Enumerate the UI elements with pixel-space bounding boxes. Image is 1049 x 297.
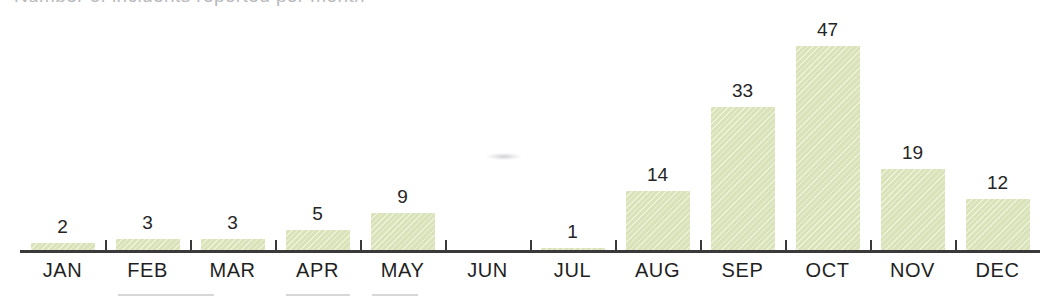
x-axis-label-apr: APR (275, 257, 360, 283)
bar[interactable] (286, 230, 350, 252)
x-axis-label-oct: OCT (785, 257, 870, 283)
bar-column[interactable]: 47 (785, 0, 870, 252)
bar-value-label: 3 (227, 213, 238, 232)
bar-value-label: 33 (732, 81, 753, 100)
bar-value-label: 19 (902, 143, 923, 162)
bar[interactable] (881, 169, 945, 252)
bar[interactable] (796, 46, 860, 252)
x-axis-tick (615, 240, 617, 251)
bar[interactable] (626, 191, 690, 252)
bar-column[interactable]: 14 (615, 0, 700, 252)
bar-column[interactable]: 9 (360, 0, 445, 252)
x-axis-label-jan: JAN (20, 257, 105, 283)
bar[interactable] (711, 107, 775, 252)
x-axis-tick (870, 240, 872, 251)
bar-column[interactable]: 3 (105, 0, 190, 252)
bar-column[interactable]: 19 (870, 0, 955, 252)
x-axis-tick (955, 240, 957, 251)
bar-value-label: 12 (987, 173, 1008, 192)
x-axis-label-may: MAY (360, 257, 445, 283)
bar-column[interactable]: 2 (20, 0, 105, 252)
x-axis-tick (190, 240, 192, 251)
x-axis-tick (360, 240, 362, 251)
x-axis-label-dec: DEC (955, 257, 1040, 283)
x-axis-tick (445, 240, 447, 251)
plot-area: 2335911433471912 (20, 0, 1040, 252)
bar-column[interactable]: 3 (190, 0, 275, 252)
x-axis-tick (700, 240, 702, 251)
x-axis-label-jul: JUL (530, 257, 615, 283)
x-axis-label-aug: AUG (615, 257, 700, 283)
x-axis-label-nov: NOV (870, 257, 955, 283)
x-axis-label-sep: SEP (700, 257, 785, 283)
x-axis-tick (530, 240, 532, 251)
bar-value-label: 2 (57, 217, 68, 236)
bar-column[interactable] (445, 0, 530, 252)
x-axis-tick (105, 240, 107, 251)
bar-column[interactable]: 12 (955, 0, 1040, 252)
x-axis-label-mar: MAR (190, 257, 275, 283)
scan-artifact-smudge (487, 153, 521, 160)
bar-chart: Number of incidents reported per month 2… (0, 0, 1049, 297)
bar-value-label: 14 (647, 165, 668, 184)
x-axis-label-jun: JUN (445, 257, 530, 283)
scan-bottom-edge-artifact (0, 292, 1049, 297)
bar-value-label: 9 (397, 187, 408, 206)
x-axis-tick (275, 240, 277, 251)
bar-value-label: 3 (142, 213, 153, 232)
bar-value-label: 1 (567, 222, 578, 241)
x-axis-tick (785, 240, 787, 251)
bar-column[interactable]: 5 (275, 0, 360, 252)
bar-column[interactable]: 1 (530, 0, 615, 252)
bar[interactable] (966, 199, 1030, 252)
x-axis-label-feb: FEB (105, 257, 190, 283)
bar-column[interactable]: 33 (700, 0, 785, 252)
bar-value-label: 5 (312, 204, 323, 223)
bar-value-label: 47 (817, 20, 838, 39)
x-axis-category-labels: JANFEBMARAPRMAYJUNJULAUGSEPOCTNOVDEC (20, 257, 1040, 287)
bar[interactable] (371, 213, 435, 252)
